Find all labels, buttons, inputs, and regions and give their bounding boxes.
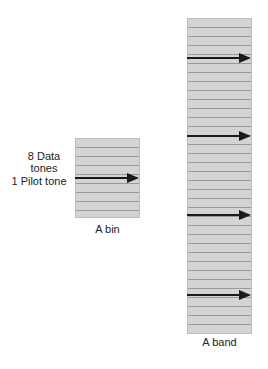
tone-label-line-2: tones bbox=[14, 162, 74, 174]
bin-pilot-arrow-icon bbox=[75, 177, 137, 179]
band-pilot-arrow-icon-1 bbox=[187, 57, 249, 59]
band-pilot-arrow-icon-4 bbox=[187, 294, 249, 296]
tone-label-line-1: 8 Data bbox=[14, 150, 74, 162]
band-pilot-arrow-icon-2 bbox=[187, 135, 249, 137]
bin-label: A bin bbox=[75, 223, 140, 235]
band-pilot-arrow-icon-3 bbox=[187, 214, 249, 216]
tone-label-line-3: 1 Pilot tone bbox=[2, 175, 76, 187]
band-block bbox=[187, 18, 252, 334]
band-label: A band bbox=[187, 336, 252, 348]
figure-caption bbox=[62, 364, 252, 369]
